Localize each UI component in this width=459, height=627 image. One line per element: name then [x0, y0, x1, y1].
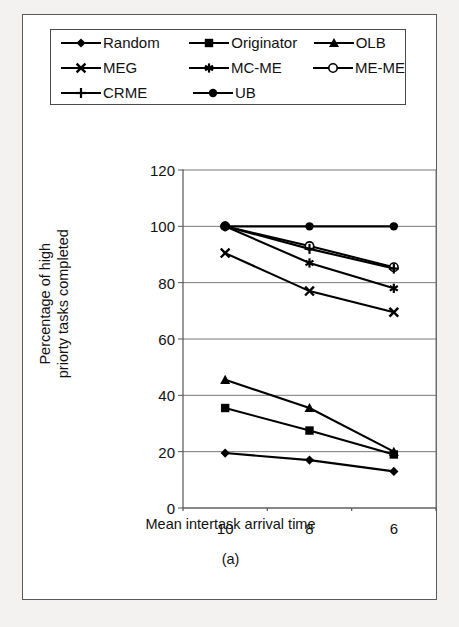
diamond-marker-icon	[59, 33, 103, 53]
chart-canvas	[23, 111, 438, 511]
legend-label: Random	[103, 35, 160, 50]
legend-row: CRME UB	[51, 80, 405, 105]
legend-label: ME-ME	[355, 60, 405, 75]
legend-item-meg: MEG	[51, 55, 187, 80]
legend-item-ub: UB	[191, 80, 319, 105]
chart-legend: Random Originator OLB MEG MC-ME ME-	[50, 29, 406, 105]
legend-item-me-me: ME-ME	[311, 55, 405, 80]
legend-label: UB	[235, 85, 256, 100]
y-axis-title-line2: priorty tasks completed	[55, 229, 71, 378]
legend-item-random: Random	[51, 30, 187, 55]
open-circle-marker-icon	[311, 58, 355, 78]
legend-item-crme: CRME	[51, 80, 191, 105]
legend-row: MEG MC-ME ME-ME	[51, 55, 405, 80]
legend-label: CRME	[103, 85, 147, 100]
plus-marker-icon	[59, 83, 103, 103]
cross-x-marker-icon	[59, 58, 103, 78]
y-axis-title: Percentage of high priorty tasks complet…	[37, 154, 72, 454]
legend-label: Originator	[231, 35, 297, 50]
square-marker-icon	[187, 33, 231, 53]
y-tick-label: 60	[133, 331, 175, 348]
legend-item-mc-me: MC-ME	[187, 55, 311, 80]
legend-item-originator: Originator	[187, 30, 311, 55]
legend-row: Random Originator OLB	[51, 30, 405, 55]
asterisk-marker-icon	[187, 58, 231, 78]
y-tick-label: 40	[133, 387, 175, 404]
y-tick-label: 100	[133, 218, 175, 235]
y-tick-label: 0	[133, 500, 175, 517]
x-axis-title: Mean intertask arrival time	[23, 516, 438, 532]
legend-label: OLB	[356, 35, 386, 50]
legend-label: MEG	[103, 60, 137, 75]
figure-caption: (a)	[23, 551, 438, 567]
y-axis-title-line1: Percentage of high	[37, 243, 53, 365]
legend-label: MC-ME	[231, 60, 282, 75]
figure-frame: Random Originator OLB MEG MC-ME ME-	[22, 14, 437, 600]
series-ub	[221, 222, 398, 230]
series-olb	[220, 375, 399, 456]
filled-circle-marker-icon	[191, 83, 235, 103]
chart-plot-region: Percentage of high priorty tasks complet…	[23, 111, 438, 601]
legend-item-olb: OLB	[312, 30, 405, 55]
y-tick-label: 20	[133, 443, 175, 460]
series-random	[221, 448, 399, 476]
y-tick-label: 120	[133, 162, 175, 179]
y-tick-label: 80	[133, 274, 175, 291]
triangle-marker-icon	[312, 33, 356, 53]
